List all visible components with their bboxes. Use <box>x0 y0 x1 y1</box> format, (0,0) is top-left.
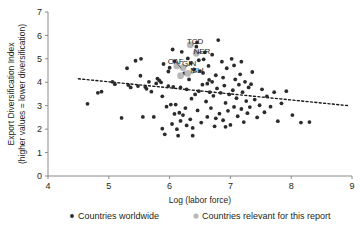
data-point <box>299 121 303 125</box>
data-point-highlight <box>177 72 184 79</box>
data-point <box>239 107 243 111</box>
data-point <box>166 84 170 88</box>
x-tick-label: 6 <box>167 181 172 191</box>
data-point <box>162 62 166 66</box>
country-label-ner: NER <box>193 47 210 56</box>
data-point <box>160 127 164 131</box>
data-point <box>205 82 209 86</box>
y-tick-label: 1 <box>37 148 42 158</box>
data-point <box>218 112 222 116</box>
data-point <box>190 97 194 101</box>
legend-label-report: Countries relevant for this report <box>202 211 331 221</box>
data-point <box>154 82 158 86</box>
data-point <box>169 103 173 107</box>
data-point <box>210 80 214 84</box>
data-point <box>239 60 243 64</box>
chart-container: 01234567456789 CAFTCDNERGINMLI Export Di… <box>0 0 360 231</box>
data-point <box>86 102 90 106</box>
data-point <box>170 122 174 126</box>
chart-legend: Countries worldwideCountries relevant fo… <box>70 211 331 221</box>
data-point <box>235 96 239 100</box>
data-point <box>176 134 180 138</box>
data-point <box>139 57 143 61</box>
data-point <box>163 132 167 136</box>
country-label-mli: MLI <box>190 66 203 75</box>
data-point <box>265 94 269 98</box>
y-tick-label: 3 <box>37 101 42 111</box>
data-point <box>227 93 231 97</box>
data-point <box>145 87 149 91</box>
data-point <box>248 105 252 109</box>
data-point <box>187 78 191 82</box>
data-point <box>136 84 140 88</box>
data-point <box>247 86 251 90</box>
data-point <box>171 48 175 52</box>
data-point <box>260 87 264 91</box>
y-tick-label: 4 <box>37 77 42 87</box>
y-tick-label: 5 <box>37 54 42 64</box>
data-point <box>113 82 117 86</box>
legend-marker-worldwide <box>70 214 74 218</box>
data-point <box>224 101 228 105</box>
data-point <box>226 109 230 113</box>
data-point <box>222 84 226 88</box>
data-point <box>213 124 217 128</box>
data-point <box>272 90 276 94</box>
data-point <box>129 86 133 90</box>
x-tick-label: 8 <box>289 181 294 191</box>
data-point <box>210 53 214 57</box>
data-point <box>221 118 225 122</box>
data-point <box>244 99 248 103</box>
data-point <box>185 123 189 127</box>
data-point <box>180 50 184 54</box>
data-point <box>166 70 170 74</box>
data-point <box>177 111 181 115</box>
data-point <box>232 64 236 68</box>
data-point <box>197 58 201 62</box>
data-point <box>229 123 233 127</box>
data-point <box>152 115 156 119</box>
data-point <box>253 98 257 102</box>
data-point <box>269 105 273 109</box>
data-point <box>216 38 220 42</box>
data-point <box>171 85 175 89</box>
data-point <box>214 116 218 120</box>
data-point <box>291 113 295 117</box>
data-point <box>188 117 192 121</box>
data-point <box>215 86 219 90</box>
data-point <box>168 66 172 70</box>
y-axis-title-line1: Export Diversification Index <box>6 42 16 146</box>
data-point <box>236 114 240 118</box>
x-tick-label: 4 <box>45 181 50 191</box>
scatter-plot: 01234567456789 CAFTCDNERGINMLI Export Di… <box>0 0 360 231</box>
data-point <box>255 116 259 120</box>
data-point <box>165 105 169 109</box>
data-point <box>191 134 195 138</box>
data-point <box>225 66 229 70</box>
data-point <box>220 60 224 64</box>
data-point <box>249 82 253 86</box>
data-point <box>233 78 237 82</box>
data-point <box>134 59 138 63</box>
data-point <box>204 100 208 104</box>
y-tick-label: 2 <box>37 124 42 134</box>
y-axis-title-line2: (higher values = lower diversification) <box>17 24 27 164</box>
data-point <box>263 110 267 114</box>
country-label-tcd: TCD <box>187 37 204 46</box>
data-point <box>231 88 235 92</box>
data-point <box>308 120 312 124</box>
data-point <box>160 94 164 98</box>
data-point <box>250 70 254 74</box>
legend-label-worldwide: Countries worldwide <box>78 211 159 221</box>
y-tick-label: 0 <box>37 171 42 181</box>
data-point <box>196 109 200 113</box>
data-point <box>197 89 201 93</box>
data-point <box>191 126 195 130</box>
data-point <box>96 91 100 95</box>
data-point <box>179 119 183 123</box>
data-point <box>211 94 215 98</box>
data-point <box>209 106 213 110</box>
data-point <box>258 103 262 107</box>
legend-marker-report <box>193 213 198 218</box>
data-point <box>120 116 124 120</box>
